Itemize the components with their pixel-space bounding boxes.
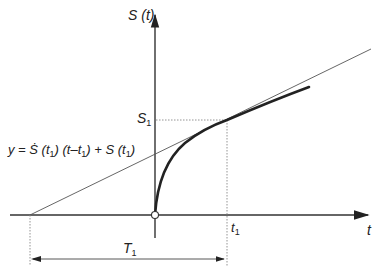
diagram-canvas [0, 0, 381, 272]
s-curve [155, 87, 309, 215]
tangent-equation: y = Ṡ (t1) (t–t1) + S (t1) [8, 142, 135, 159]
s1-label: S1 [137, 110, 151, 128]
t1-label: t1 [231, 220, 240, 237]
y-axis-label: S (t) [128, 7, 154, 23]
s-dot-symbol: Ṡ [29, 142, 38, 157]
T1-arrowhead-left [31, 256, 41, 262]
x-axis-label: t [367, 222, 371, 238]
T1-label: T1 [123, 240, 137, 258]
origin-marker [152, 212, 159, 219]
